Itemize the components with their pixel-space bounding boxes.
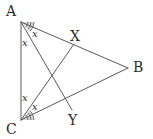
vertex-label-Y: Y — [68, 113, 77, 127]
angle-label-a-lower: x — [22, 38, 28, 48]
vertex-label-C: C — [6, 122, 17, 136]
cevian-AY — [21, 22, 72, 110]
angle-label-c-lower: x — [32, 102, 38, 112]
geometry-figure: A B C X Y x x x x — [0, 0, 153, 139]
vertex-label-B: B — [133, 60, 143, 74]
angle-label-a-upper: x — [32, 29, 38, 39]
vertex-label-X: X — [70, 29, 80, 43]
cevian-CX — [21, 44, 74, 120]
angle-label-c-upper: x — [22, 93, 28, 103]
vertex-label-A: A — [6, 4, 16, 18]
